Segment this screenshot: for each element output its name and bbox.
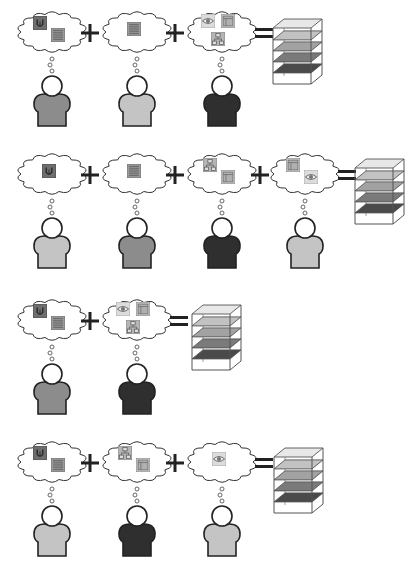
- thought-bubble-dot: [133, 205, 137, 209]
- window-icon: [221, 170, 235, 184]
- stack-layer-5: [273, 64, 322, 73]
- list-icon: [51, 316, 65, 330]
- thinker-4-1: [15, 438, 89, 562]
- thinker-4-2: [100, 438, 174, 562]
- person-body-icon: [204, 94, 240, 126]
- person-head-icon: [212, 76, 232, 96]
- person-body-icon: [119, 524, 155, 556]
- stack-layer-2: [192, 317, 241, 326]
- person-body-icon: [204, 236, 240, 268]
- thought-bubble-dot: [303, 211, 307, 215]
- person-head-icon: [127, 218, 147, 238]
- plus-sign: [81, 312, 99, 330]
- list-icon: [51, 458, 65, 472]
- person-head-icon: [42, 506, 62, 526]
- person-body-icon: [34, 524, 70, 556]
- thought-bubble-dot: [220, 487, 224, 491]
- plus-sign: [81, 24, 99, 42]
- lightbulb-icon: [42, 164, 56, 178]
- person-head-icon: [295, 218, 315, 238]
- thinker-2-4: [268, 150, 342, 274]
- person-head-icon: [42, 76, 62, 96]
- person-body-icon: [204, 524, 240, 556]
- stack-layer-4: [274, 482, 323, 491]
- stack-layer-1: [192, 305, 241, 314]
- stack-layer-5: [274, 493, 323, 502]
- thinker-2-3: [185, 150, 259, 274]
- plus-sign: [81, 166, 99, 184]
- thought-bubble-dot: [48, 493, 52, 497]
- eye-icon: [212, 452, 226, 466]
- person-head-icon: [212, 506, 232, 526]
- thought-bubble-dot: [135, 57, 139, 61]
- network-icon: [126, 320, 140, 334]
- person-body-icon: [34, 236, 70, 268]
- equals-sign: [255, 454, 273, 472]
- list-icon: [127, 22, 141, 36]
- plus-sign: [81, 454, 99, 472]
- equals-sign: [170, 312, 188, 330]
- network-icon: [211, 32, 225, 46]
- thought-bubble-dot: [50, 199, 54, 203]
- window-icon: [136, 458, 150, 472]
- stack-layer-3: [273, 42, 322, 51]
- thought-bubble-dot: [48, 63, 52, 67]
- stack-layer-5: [192, 350, 241, 359]
- thought-bubble-dot: [50, 487, 54, 491]
- thought-bubble-dot: [50, 345, 54, 349]
- stack-layer-3: [192, 328, 241, 337]
- thought-bubble-dot: [220, 199, 224, 203]
- thought-bubble-dot: [220, 499, 224, 503]
- thinker-1-2: [100, 8, 174, 132]
- stack-layer-1: [274, 448, 323, 457]
- thought-bubble-dot: [135, 499, 139, 503]
- thought-bubble-dot: [220, 211, 224, 215]
- thought-bubble-dot: [135, 69, 139, 73]
- stack-layer-1: [273, 19, 322, 28]
- thought-bubble-dot: [133, 493, 137, 497]
- window-icon: [286, 158, 300, 172]
- stack-layer-3: [274, 471, 323, 480]
- thought-bubble-dot: [50, 211, 54, 215]
- thought-bubble-dot: [218, 63, 222, 67]
- thinker-2-1: [15, 150, 89, 274]
- plus-sign: [166, 454, 184, 472]
- stack-layer-4: [355, 193, 404, 202]
- eye-icon: [116, 302, 130, 316]
- person-head-icon: [127, 76, 147, 96]
- plus-sign: [166, 166, 184, 184]
- thinker-1-1: [15, 8, 89, 132]
- stack-layer-3: [355, 182, 404, 191]
- person-body-icon: [119, 236, 155, 268]
- thought-bubble-dot: [48, 205, 52, 209]
- network-icon: [118, 446, 132, 460]
- thinker-4-3: [185, 438, 259, 562]
- window-icon: [221, 14, 235, 28]
- plus-sign: [166, 24, 184, 42]
- thought-bubble-dot: [135, 357, 139, 361]
- eye-icon: [201, 14, 215, 28]
- thought-bubble-dot: [50, 57, 54, 61]
- stack-layer-2: [274, 460, 323, 469]
- thought-bubble-dot: [50, 499, 54, 503]
- stack-layer-4: [273, 53, 322, 62]
- person-head-icon: [42, 218, 62, 238]
- thought-bubble-dot: [135, 345, 139, 349]
- layered-stack: [273, 447, 325, 515]
- thinker-3-2: [100, 296, 174, 420]
- person-head-icon: [127, 506, 147, 526]
- thinker-2-2: [100, 150, 174, 274]
- person-body-icon: [119, 382, 155, 414]
- person-head-icon: [127, 364, 147, 384]
- person-body-icon: [119, 94, 155, 126]
- stack-layer-2: [273, 31, 322, 40]
- equals-sign: [255, 24, 273, 42]
- lightbulb-icon: [33, 304, 47, 318]
- lightbulb-icon: [33, 446, 47, 460]
- window-icon: [136, 302, 150, 316]
- eye-icon: [304, 170, 318, 184]
- thought-bubble-dot: [133, 351, 137, 355]
- thought-bubble-dot: [218, 205, 222, 209]
- thought-bubble-dot: [48, 351, 52, 355]
- lightbulb-icon: [33, 16, 47, 30]
